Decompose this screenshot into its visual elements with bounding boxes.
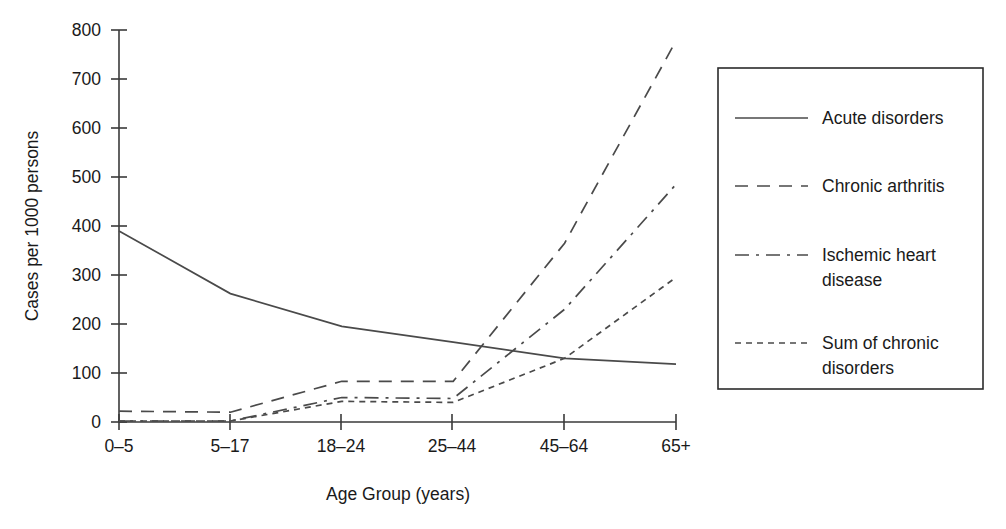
y-tick-label-800: 800 bbox=[72, 20, 101, 40]
legend-label-ischemic-heart-disease-line2: disease bbox=[822, 270, 882, 290]
y-axis-tick-labels: 800 700 600 500 400 300 200 100 0 bbox=[72, 20, 101, 432]
y-tick-label-700: 700 bbox=[72, 69, 101, 89]
legend-label-sum-of-chronic-disorders: Sum of chronic bbox=[822, 333, 939, 353]
y-tick-label-500: 500 bbox=[72, 167, 101, 187]
series-group bbox=[119, 41, 676, 421]
x-axis-tick-labels: 0–5 5–17 18–24 25–44 45–64 65+ bbox=[104, 436, 690, 456]
x-tick-label-5: 65+ bbox=[661, 436, 691, 456]
series-sum-of-chronic-disorders bbox=[119, 277, 676, 421]
y-tick-label-200: 200 bbox=[72, 314, 101, 334]
line-chart: Cases per 1000 persons 800 700 600 500 4… bbox=[0, 0, 1006, 529]
series-ischemic-heart-disease bbox=[119, 184, 676, 421]
y-axis-title: Cases per 1000 persons bbox=[22, 130, 42, 321]
legend-label-acute-disorders: Acute disorders bbox=[822, 108, 944, 128]
legend: Acute disorders Chronic arthritis Ischem… bbox=[718, 68, 983, 389]
y-tick-label-300: 300 bbox=[72, 265, 101, 285]
x-tick-label-3: 25–44 bbox=[428, 436, 477, 456]
y-tick-label-600: 600 bbox=[72, 118, 101, 138]
legend-label-ischemic-heart-disease: Ischemic heart bbox=[822, 245, 936, 265]
x-tick-label-1: 5–17 bbox=[211, 436, 250, 456]
y-tick-label-400: 400 bbox=[72, 216, 101, 236]
x-tick-label-4: 45–64 bbox=[540, 436, 589, 456]
x-tick-label-0: 0–5 bbox=[104, 436, 133, 456]
legend-label-chronic-arthritis: Chronic arthritis bbox=[822, 176, 945, 196]
legend-label-sum-of-chronic-disorders-line2: disorders bbox=[822, 358, 894, 378]
series-acute-disorders bbox=[119, 231, 676, 364]
y-tick-label-100: 100 bbox=[72, 363, 101, 383]
chart-canvas: Cases per 1000 persons 800 700 600 500 4… bbox=[0, 0, 1006, 529]
x-tick-label-2: 18–24 bbox=[317, 436, 366, 456]
x-axis-title: Age Group (years) bbox=[326, 484, 470, 504]
series-chronic-arthritis bbox=[119, 41, 676, 412]
y-tick-label-0: 0 bbox=[91, 412, 101, 432]
